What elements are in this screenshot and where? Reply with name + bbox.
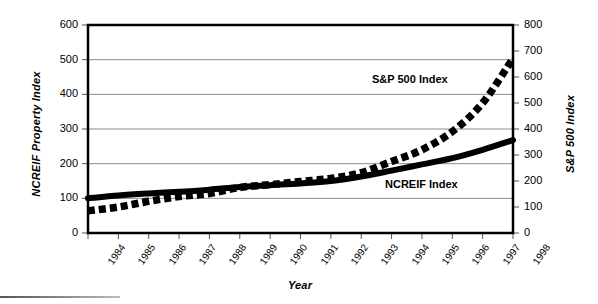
- y-axis-left-tick-label: 600: [38, 18, 78, 30]
- chart-figure: NCREIF Property Index S&P 500 Index Year…: [0, 0, 598, 304]
- y-axis-right-tick-label: 600: [524, 70, 564, 82]
- y-axis-right-tick-label: 700: [524, 44, 564, 56]
- y-axis-left-title: NCREIF Property Index: [30, 54, 42, 214]
- y-axis-right-title: S&P 500 Index: [564, 59, 576, 209]
- x-axis-title: Year: [245, 279, 355, 291]
- y-axis-right-tick-label: 500: [524, 96, 564, 108]
- y-axis-left-tick-label: 0: [38, 226, 78, 238]
- y-axis-left-tick-label: 400: [38, 87, 78, 99]
- y-axis-right-tick-label: 300: [524, 148, 564, 160]
- y-axis-left-tick-label: 300: [38, 122, 78, 134]
- y-axis-left-tick-label: 100: [38, 191, 78, 203]
- y-axis-right-tick-label: 100: [524, 200, 564, 212]
- series-label-sp500: S&P 500 Index: [372, 73, 448, 85]
- page-edge-rule: [0, 296, 120, 298]
- y-axis-left-tick-label: 500: [38, 53, 78, 65]
- y-axis-left-tick-label: 200: [38, 157, 78, 169]
- y-axis-right-tick-label: 400: [524, 122, 564, 134]
- y-axis-right-tick-label: 800: [524, 18, 564, 30]
- series-label-ncreif: NCREIF Index: [385, 178, 458, 190]
- y-axis-right-tick-label: 200: [524, 174, 564, 186]
- y-axis-right-tick-label: 0: [524, 226, 564, 238]
